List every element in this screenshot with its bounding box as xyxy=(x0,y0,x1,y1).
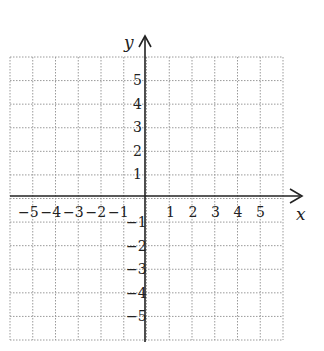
x-axis xyxy=(10,189,302,203)
y-tick-label: −3 xyxy=(126,261,147,277)
x-tick-label: 2 xyxy=(189,204,198,220)
x-tick-label: 3 xyxy=(211,204,220,220)
y-tick-label: −5 xyxy=(126,308,147,324)
x-tick-label: −3 xyxy=(63,204,84,220)
x-axis-label: x xyxy=(296,204,306,224)
y-axis-label: y xyxy=(123,32,134,52)
y-tick-label: 4 xyxy=(133,96,142,112)
y-tick-label: 5 xyxy=(133,72,142,88)
y-tick-label: 1 xyxy=(133,166,142,182)
y-tick-label: −4 xyxy=(126,285,147,301)
x-tick-label: −4 xyxy=(41,204,62,220)
y-tick-label: 3 xyxy=(133,119,142,135)
coordinate-plane: x y −5−4−3−2−112345 54321−1−2−3−4−5 xyxy=(0,0,324,351)
x-tick-label: 4 xyxy=(234,204,243,220)
x-tick-label: −5 xyxy=(18,204,39,220)
x-tick-label: 1 xyxy=(166,204,175,220)
y-tick-label: −2 xyxy=(126,238,147,254)
x-tick-label: 5 xyxy=(256,204,265,220)
y-tick-label: 2 xyxy=(133,143,142,159)
y-tick-label: −1 xyxy=(126,214,147,230)
x-tick-label: −2 xyxy=(86,204,107,220)
